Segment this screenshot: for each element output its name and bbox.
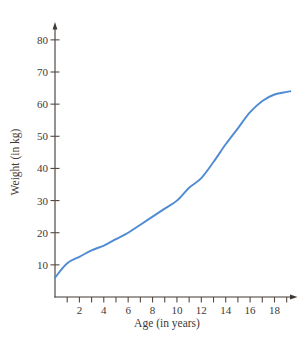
y-tick-label: 80 bbox=[37, 34, 49, 46]
y-axis-arrow-icon bbox=[53, 22, 58, 30]
weight-vs-age-curve bbox=[55, 91, 290, 277]
x-tick-label: 6 bbox=[125, 304, 131, 316]
y-tick-label: 40 bbox=[37, 162, 49, 174]
x-tick-label: 8 bbox=[150, 304, 156, 316]
y-tick-label: 60 bbox=[37, 98, 49, 110]
x-tick-label: 14 bbox=[220, 304, 232, 316]
weight-vs-age-chart: 102030405060708024681012141618Age (in ye… bbox=[0, 0, 308, 350]
y-tick-label: 50 bbox=[37, 130, 49, 142]
x-tick-label: 4 bbox=[101, 304, 107, 316]
growth-chart-page: 102030405060708024681012141618Age (in ye… bbox=[0, 0, 308, 350]
growth-chart-figure: 102030405060708024681012141618Age (in ye… bbox=[0, 0, 308, 350]
y-tick-label: 70 bbox=[37, 66, 49, 78]
y-tick-label: 30 bbox=[37, 195, 49, 207]
x-axis-title: Age (in years) bbox=[134, 317, 200, 330]
y-axis-title: Weight (in kg) bbox=[9, 128, 22, 195]
y-tick-label: 20 bbox=[37, 227, 49, 239]
y-tick-label: 10 bbox=[37, 259, 49, 271]
x-tick-label: 12 bbox=[196, 304, 207, 316]
x-tick-label: 2 bbox=[77, 304, 83, 316]
x-tick-label: 18 bbox=[269, 304, 281, 316]
x-tick-label: 16 bbox=[245, 304, 257, 316]
x-axis-arrow-icon bbox=[290, 295, 298, 300]
x-tick-label: 10 bbox=[171, 304, 183, 316]
